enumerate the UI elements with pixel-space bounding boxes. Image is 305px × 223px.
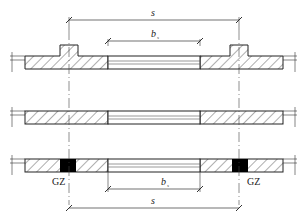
label-b-top: b xyxy=(151,28,156,39)
label-s-top: s xyxy=(151,7,155,18)
top-dimension-b: b s xyxy=(105,28,203,46)
column-gz-right xyxy=(232,159,248,172)
column-gz-left xyxy=(60,159,76,172)
top-dimension-s: s xyxy=(66,7,242,30)
section-top xyxy=(10,45,297,72)
label-b-subscript-top: s xyxy=(157,35,159,40)
label-b-bottom: b xyxy=(161,176,166,187)
label-gz-left: GZ xyxy=(52,176,65,187)
bottom-dimension-b: b s xyxy=(105,173,203,192)
label-gz-right: GZ xyxy=(247,176,260,187)
label-s-bottom: s xyxy=(151,195,155,206)
section-bottom: GZ GZ xyxy=(10,155,297,187)
section-middle xyxy=(10,107,297,127)
wall-diagram: s b s xyxy=(0,0,305,223)
label-b-subscript-bottom: s xyxy=(167,183,169,188)
bottom-dimension-s: s xyxy=(66,195,242,211)
